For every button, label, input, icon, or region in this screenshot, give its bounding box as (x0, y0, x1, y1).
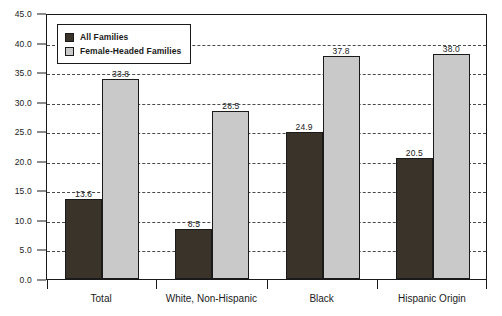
bar (396, 158, 433, 279)
x-axis-tick-mark (267, 280, 268, 289)
bar (286, 132, 323, 279)
x-axis-tick-mark (486, 280, 487, 289)
y-axis-tick-mark (37, 280, 46, 281)
y-axis-tick-label: 35.0 (15, 68, 32, 78)
x-axis: TotalWhite, Non-HispanicBlackHispanic Or… (46, 280, 487, 316)
y-axis-tick-mark (37, 161, 46, 162)
legend-entry-label: All Families (80, 32, 128, 42)
y-axis-tick-mark (37, 73, 46, 74)
y-axis-tick-mark (37, 250, 46, 251)
bar (65, 199, 102, 279)
x-axis-category-label: Black (309, 293, 333, 304)
chart-legend: All FamiliesFemale-Headed Families (57, 24, 191, 64)
y-axis-tick-mark (37, 14, 46, 15)
x-axis-tick-mark (377, 280, 378, 289)
bar-value-label: 13.6 (75, 189, 92, 199)
y-axis-tick-mark (37, 132, 46, 133)
y-axis-tick-mark (37, 43, 46, 44)
bar-value-label: 20.5 (406, 148, 423, 158)
x-axis-tick-mark (47, 280, 48, 289)
legend-entry: All Families (65, 30, 181, 44)
y-axis: 0.05.010.015.020.025.030.035.040.045.0 (0, 0, 46, 316)
x-axis-category-label: Total (91, 293, 112, 304)
y-axis-tick-label: 40.0 (15, 39, 32, 49)
y-axis-tick-mark (37, 220, 46, 221)
y-axis-tick-label: 45.0 (15, 9, 32, 19)
bar-value-label: 24.9 (295, 122, 312, 132)
x-axis-tick-mark (156, 280, 157, 289)
bar (102, 79, 139, 279)
legend-entry-label: Female-Headed Families (80, 46, 181, 56)
y-axis-tick-label: 25.0 (15, 127, 32, 137)
y-axis-tick-mark (37, 191, 46, 192)
x-axis-category-label: Hispanic Origin (398, 293, 466, 304)
bar-value-label: 8.5 (188, 219, 200, 229)
bar-value-label: 37.8 (332, 46, 349, 56)
bar-chart: 0.05.010.015.020.025.030.035.040.045.0 1… (0, 0, 502, 316)
legend-swatch-icon (65, 47, 74, 56)
y-axis-tick-mark (37, 102, 46, 103)
y-axis-tick-label: 10.0 (15, 216, 32, 226)
legend-entry: Female-Headed Families (65, 44, 181, 58)
bar-value-label: 38.0 (443, 44, 460, 54)
y-axis-tick-label: 15.0 (15, 186, 32, 196)
bar (175, 229, 212, 279)
legend-swatch-icon (65, 33, 74, 42)
bar (212, 111, 249, 279)
y-axis-tick-label: 20.0 (15, 157, 32, 167)
bar-value-label: 33.8 (112, 69, 129, 79)
bar (433, 54, 470, 279)
x-axis-category-label: White, Non-Hispanic (166, 293, 257, 304)
bar (323, 56, 360, 279)
bar-value-label: 28.5 (222, 101, 239, 111)
y-axis-tick-label: 30.0 (15, 98, 32, 108)
y-axis-tick-label: 0.0 (20, 275, 32, 285)
y-axis-tick-label: 5.0 (20, 245, 32, 255)
